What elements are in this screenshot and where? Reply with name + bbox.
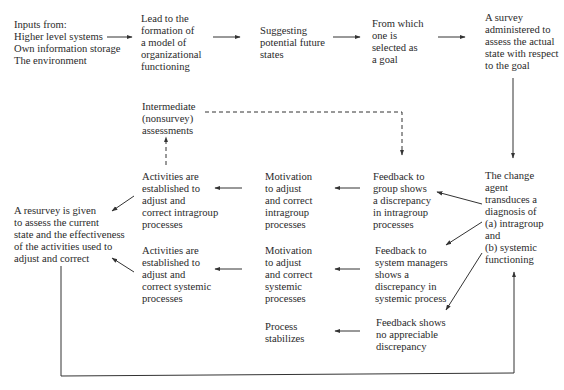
node-model-formation: Lead to the formation of a model of orga…: [141, 13, 201, 73]
arrow-change-agent-to-feedback-none: [446, 253, 482, 310]
node-change-agent: The change agent transduces a diagnosis …: [485, 170, 544, 266]
node-survey: A survey administered to assess the actu…: [485, 12, 559, 72]
node-process-stabilizes: Process stabilizes: [265, 321, 304, 345]
node-activities-systemic: Activities are established to adjust and…: [142, 245, 211, 305]
node-resurvey: A resurvey is given to assess the curren…: [14, 205, 125, 265]
node-intermediate-assessments: Intermediate (nonsurvey) assessments: [142, 101, 196, 137]
node-feedback-no-discrepancy: Feedback shows no appreciable discrepanc…: [376, 317, 446, 353]
node-inputs: Inputs from: Higher level systems Own in…: [14, 19, 121, 67]
node-motivation-intragroup: Motivation to adjust and correct intragr…: [265, 171, 312, 231]
organizational-change-flow-diagram: Inputs from: Higher level systems Own in…: [0, 0, 564, 390]
node-feedback-group: Feedback to group shows a discrepancy in…: [373, 171, 431, 231]
node-goal-selection: From which one is selected as a goal: [372, 18, 424, 66]
node-motivation-systemic: Motivation to adjust and correct systemi…: [265, 245, 312, 305]
dashed-arrow-intermediate-to-feedback: [205, 112, 402, 155]
node-activities-intragroup: Activities are established to adjust and…: [142, 171, 218, 231]
arrow-change-agent-to-feedback-system: [446, 222, 482, 245]
node-future-states: Suggesting potential future states: [260, 25, 325, 61]
node-feedback-system-managers: Feedback to system managers shows a disc…: [375, 245, 448, 305]
arrow-change-agent-to-feedback-group: [437, 192, 482, 204]
